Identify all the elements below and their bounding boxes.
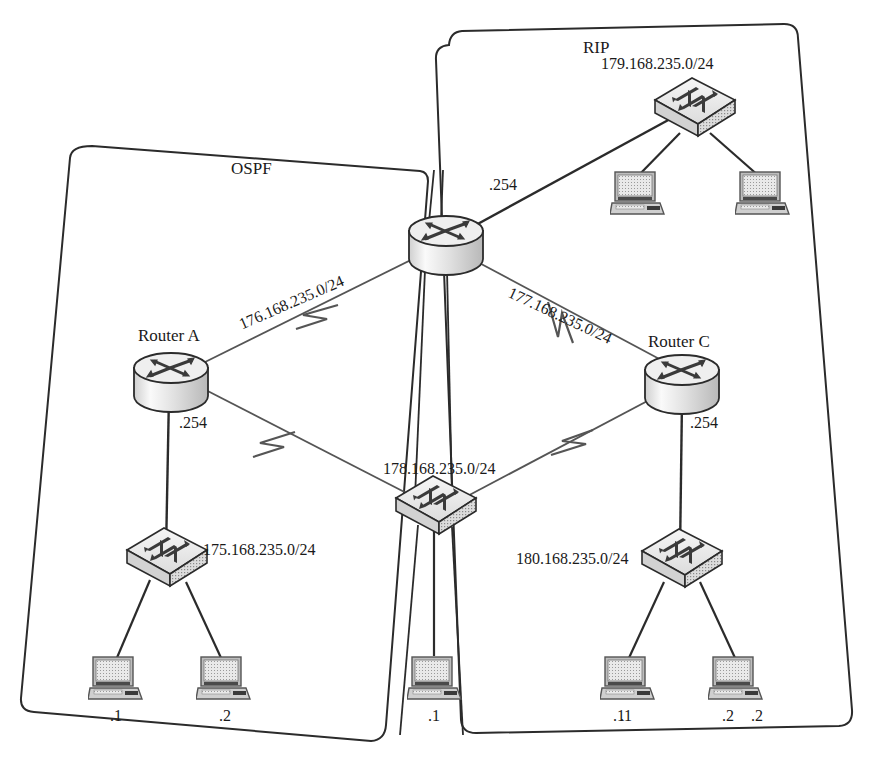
host-180-2-label: .2 <box>722 707 734 725</box>
interface-label-routera-254: .254 <box>179 414 207 432</box>
router-a-icon[interactable] <box>134 353 208 412</box>
router-c-icon[interactable] <box>645 355 719 414</box>
switch-178-icon[interactable] <box>396 476 476 534</box>
link-switch178-down-a <box>400 525 418 735</box>
zone-label-ospf: OSPF <box>231 159 272 179</box>
network-diagram-canvas: OSPF RIP 179.168.235.0/24 176.168.235.0/… <box>0 0 875 773</box>
host-175-1-label: .1 <box>110 707 122 725</box>
link-switch179-host2 <box>710 133 760 177</box>
link-switch178-routerc <box>460 388 672 500</box>
router-c-label: Router C <box>648 332 710 352</box>
interface-label-routerc-254: .254 <box>690 414 718 432</box>
diagram-vector-layer <box>0 0 875 773</box>
wan-marker-178-left <box>253 432 295 457</box>
zone-boundary-ospf <box>21 146 428 741</box>
network-label-178: 178.168.235.0/24 <box>383 460 495 478</box>
host-175-1-icon[interactable] <box>88 657 142 699</box>
interface-label-routerb-254: .254 <box>489 176 517 194</box>
host-178-1-icon[interactable] <box>407 657 461 699</box>
switch-179-icon[interactable] <box>655 78 735 136</box>
router-b-icon[interactable] <box>409 216 483 275</box>
wan-marker-176 <box>296 305 338 329</box>
network-label-179: 179.168.235.0/24 <box>601 55 713 73</box>
host-175-2-label: .2 <box>219 707 231 725</box>
host-180-2-icon[interactable] <box>708 657 762 699</box>
link-routera-switch178 <box>196 385 420 500</box>
host-179-1-icon[interactable] <box>610 172 664 214</box>
link-switch175-host1 <box>116 580 150 660</box>
link-switch175-host2 <box>186 582 222 660</box>
network-label-180: 180.168.235.0/24 <box>516 550 628 568</box>
link-routerb-up-a <box>429 170 434 222</box>
network-label-175: 175.168.235.0/24 <box>203 541 315 559</box>
host-179-2-label: .2 <box>751 707 763 725</box>
link-switch180-host2 <box>700 582 736 660</box>
host-175-2-icon[interactable] <box>196 657 250 699</box>
host-180-1-icon[interactable] <box>600 657 654 699</box>
host-178-1-label: .1 <box>428 707 440 725</box>
switch-175-icon[interactable] <box>127 528 207 586</box>
router-a-label: Router A <box>138 326 200 346</box>
host-179-2-icon[interactable] <box>735 172 789 214</box>
link-switch179-host1 <box>637 133 680 177</box>
host-180-1-label: .1 <box>613 707 625 725</box>
link-switch180-host1 <box>628 582 664 660</box>
link-routera-routerb <box>193 253 425 368</box>
switch-180-icon[interactable] <box>642 529 722 587</box>
link-switch178-down-b <box>452 527 463 735</box>
